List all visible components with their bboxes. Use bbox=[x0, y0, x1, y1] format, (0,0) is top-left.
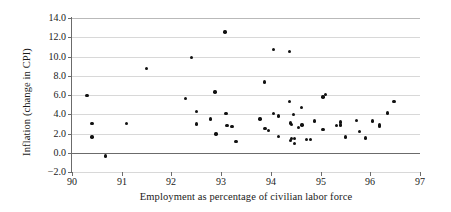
data-point bbox=[288, 100, 291, 103]
data-point bbox=[292, 113, 295, 116]
data-point bbox=[190, 56, 193, 59]
data-point bbox=[378, 125, 381, 128]
x-tick-label: 97 bbox=[405, 177, 435, 187]
x-tick-label: 95 bbox=[306, 177, 336, 187]
plot-area bbox=[72, 18, 420, 172]
data-point bbox=[305, 138, 308, 141]
data-point bbox=[90, 122, 93, 125]
gridline-y--2.0 bbox=[72, 172, 420, 173]
data-point bbox=[145, 67, 148, 70]
data-point bbox=[321, 128, 324, 131]
y-tick-label: 12.0 bbox=[32, 32, 66, 42]
y-tick-label: −2.0 bbox=[32, 167, 66, 177]
data-point bbox=[297, 126, 300, 129]
data-point bbox=[234, 140, 237, 143]
data-point bbox=[313, 119, 316, 122]
y-tick-label: 10.0 bbox=[32, 52, 66, 62]
y-tick-label: 14.0 bbox=[32, 13, 66, 23]
data-point bbox=[195, 110, 198, 113]
y-tick-mark bbox=[68, 18, 72, 19]
gridline-y-6.0 bbox=[72, 95, 420, 96]
gridline-y-4.0 bbox=[72, 114, 420, 115]
x-tick-label: 92 bbox=[156, 177, 186, 187]
gridline-y-14.0 bbox=[72, 18, 420, 19]
data-point bbox=[209, 117, 212, 120]
data-point bbox=[263, 80, 266, 83]
y-tick-mark bbox=[68, 95, 72, 96]
data-point bbox=[358, 130, 361, 133]
data-point bbox=[309, 138, 312, 141]
data-point bbox=[300, 106, 303, 109]
data-point bbox=[335, 124, 338, 127]
data-point bbox=[339, 123, 342, 126]
data-point bbox=[277, 114, 280, 117]
x-axis-title: Employment as percentage of civilian lab… bbox=[72, 191, 420, 202]
y-tick-mark bbox=[68, 57, 72, 58]
data-point bbox=[213, 90, 216, 93]
y-tick-mark bbox=[68, 153, 72, 154]
y-tick-label: 8.0 bbox=[32, 71, 66, 81]
scatter-chart-figure: Inflation (change in CPI) −2.00.02.04.06… bbox=[0, 0, 451, 212]
data-point bbox=[300, 123, 303, 126]
x-tick-label: 93 bbox=[206, 177, 236, 187]
data-point bbox=[290, 123, 293, 126]
data-point bbox=[214, 132, 217, 135]
data-point bbox=[184, 97, 187, 100]
y-tick-label: 2.0 bbox=[32, 129, 66, 139]
x-tick-label: 94 bbox=[256, 177, 286, 187]
data-point bbox=[272, 48, 275, 51]
data-point bbox=[230, 125, 233, 128]
data-point bbox=[125, 122, 128, 125]
data-point bbox=[195, 122, 198, 125]
data-point bbox=[288, 50, 291, 53]
gridline-y-10.0 bbox=[72, 57, 420, 58]
y-tick-label: 4.0 bbox=[32, 109, 66, 119]
data-point bbox=[293, 137, 296, 140]
gridline-y-8.0 bbox=[72, 76, 420, 77]
data-point bbox=[85, 94, 88, 97]
gridline-y-0.0 bbox=[72, 153, 420, 154]
data-point bbox=[277, 135, 280, 138]
x-tick-label: 96 bbox=[355, 177, 385, 187]
data-point bbox=[104, 154, 107, 157]
data-point bbox=[371, 119, 374, 122]
data-point bbox=[289, 139, 292, 142]
data-point bbox=[223, 30, 226, 33]
data-point bbox=[293, 142, 296, 145]
data-point bbox=[90, 135, 93, 138]
data-point bbox=[224, 112, 227, 115]
y-tick-label: 6.0 bbox=[32, 90, 66, 100]
y-axis-tick-labels: −2.00.02.04.06.08.010.012.014.0 bbox=[30, 18, 66, 172]
data-point bbox=[392, 100, 395, 103]
y-tick-mark bbox=[68, 134, 72, 135]
y-tick-mark bbox=[68, 114, 72, 115]
gridline-y-2.0 bbox=[72, 134, 420, 135]
data-point bbox=[272, 112, 275, 115]
data-point bbox=[344, 135, 347, 138]
x-tick-label: 91 bbox=[107, 177, 137, 187]
x-tick-label: 90 bbox=[57, 177, 87, 187]
y-tick-mark bbox=[68, 37, 72, 38]
data-point bbox=[267, 129, 270, 132]
data-point bbox=[225, 124, 228, 127]
y-tick-label: 0.0 bbox=[32, 148, 66, 158]
data-point bbox=[355, 119, 358, 122]
data-point bbox=[258, 117, 261, 120]
gridline-y-12.0 bbox=[72, 37, 420, 38]
data-point bbox=[364, 136, 367, 139]
x-axis-tick-labels: 9091929394959697 bbox=[72, 177, 420, 189]
y-tick-mark bbox=[68, 76, 72, 77]
data-point bbox=[386, 111, 389, 114]
